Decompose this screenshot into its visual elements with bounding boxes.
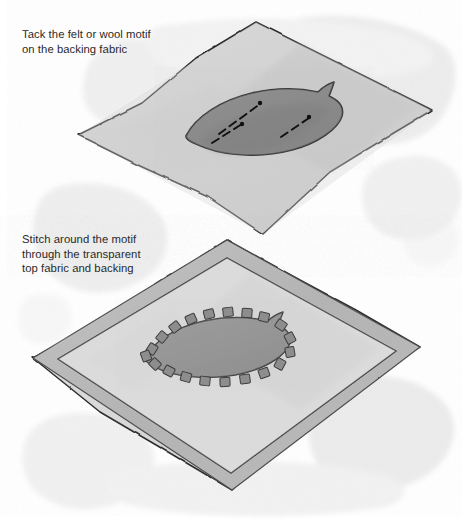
caption-step-1: Tack the felt or wool motif on the backi… bbox=[22, 28, 212, 57]
wash-drip-right bbox=[403, 212, 458, 267]
blanket-stitch bbox=[239, 374, 250, 384]
blanket-stitch bbox=[258, 312, 270, 323]
blanket-stitch bbox=[220, 377, 230, 386]
blanket-stitch bbox=[200, 376, 211, 386]
caption-step-2: Stitch around the motif through the tran… bbox=[22, 233, 217, 277]
blanket-stitch bbox=[242, 308, 253, 318]
blanket-stitch bbox=[285, 346, 296, 357]
illustration-canvas: Tack the felt or wool motif on the backi… bbox=[0, 0, 462, 525]
blanket-stitch bbox=[203, 308, 215, 319]
blanket-stitch bbox=[223, 307, 234, 317]
wash-drip-left bbox=[18, 293, 72, 344]
